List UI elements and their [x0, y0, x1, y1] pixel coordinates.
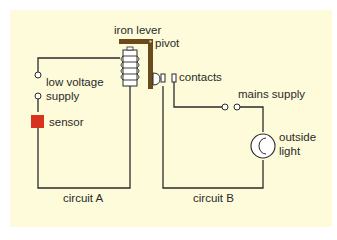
circuit-b-label: circuit B	[193, 192, 234, 205]
contacts-icon	[161, 74, 176, 82]
mains-terminal-left	[222, 104, 228, 110]
circuit-b-wire-left	[163, 86, 263, 188]
pivot-icon	[149, 40, 151, 42]
pivot-label: pivot	[155, 37, 179, 50]
iron-lever-label: iron lever	[114, 24, 161, 37]
electromagnet-coil-icon	[121, 47, 139, 86]
sensor-icon	[31, 115, 44, 128]
sensor-label: sensor	[49, 116, 84, 129]
circuit-a-wire	[38, 58, 120, 72]
outside-light-label-line1: outside	[279, 131, 316, 144]
low-voltage-terminal-top	[35, 72, 41, 78]
mains-supply-label: mains supply	[238, 88, 305, 101]
circuit-b-wire-mains	[238, 107, 263, 132]
contacts-label: contacts	[179, 71, 222, 84]
circuit-a-label: circuit A	[63, 192, 103, 205]
low-voltage-terminal-bottom	[35, 93, 41, 99]
low-voltage-label-line1: low voltage	[46, 76, 104, 89]
low-voltage-label-line2: supply	[46, 90, 79, 103]
outside-light-icon	[251, 134, 275, 158]
mains-terminal-right	[234, 104, 240, 110]
outside-light-label-line2: light	[279, 145, 300, 158]
